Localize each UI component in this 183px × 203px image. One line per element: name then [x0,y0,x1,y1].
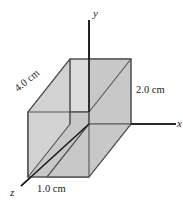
box-front-face [89,59,131,124]
width-dimension-label: 1.0 cm [37,183,66,194]
x-axis-label: x [176,117,182,129]
length-dimension-label: 4.0 cm [12,67,41,94]
box-diagram-svg: y x z 4.0 cm 2.0 cm 1.0 cm [0,0,183,203]
figure-container: y x z 4.0 cm 2.0 cm 1.0 cm [0,0,183,203]
height-dimension-label: 2.0 cm [136,84,165,95]
y-axis-label: y [92,7,98,19]
z-axis-label: z [9,186,15,198]
